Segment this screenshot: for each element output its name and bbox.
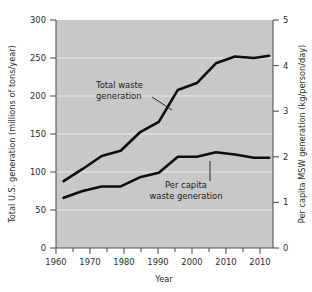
x-tick-label: 2010 [249,257,270,267]
right-tick-label: 1 [283,197,288,207]
left-tick-label: 100 [30,167,46,177]
chart-figure: 300 250 200 150 100 50 0 Total U.S. gene… [0,0,312,292]
left-tick-label: 250 [30,53,46,63]
right-tick-label: 4 [283,61,288,71]
x-tick-label: 1980 [113,257,134,267]
left-axis: 300 250 200 150 100 50 0 Total U.S. gene… [7,15,56,253]
x-tick-label: 2010 [215,257,236,267]
annotation-per-capita-line2: waste generation [150,191,223,201]
annotation-total-waste-line2: generation [96,91,142,101]
right-tick-label: 5 [283,15,288,25]
left-tick-label: 300 [30,15,46,25]
left-tick-label: 200 [30,91,46,101]
x-tick-label: 1990 [147,257,168,267]
right-axis: 5 4 3 2 1 0 Per capita MSW generation (k… [273,15,307,253]
left-tick-label: 150 [30,129,46,139]
x-tick-label: 2000 [181,257,202,267]
annotation-total-waste-line1: Total waste [95,80,143,90]
waste-generation-line-chart: 300 250 200 150 100 50 0 Total U.S. gene… [0,0,312,292]
left-tick-label: 0 [41,243,46,253]
right-tick-label: 2 [283,152,288,162]
right-tick-label: 0 [283,243,288,253]
x-axis: 1960 1970 1980 1990 2000 2010 2010 Year [45,248,273,284]
left-tick-label: 50 [35,205,46,215]
x-axis-title: Year [154,274,173,284]
left-axis-title: Total U.S. generation (millions of tons/… [7,45,17,224]
x-tick-label: 1960 [45,257,66,267]
right-axis-title: Per capita MSW generation (kg/person/day… [297,45,307,224]
right-tick-label: 3 [283,106,288,116]
annotation-per-capita-line1: Per capita [165,180,207,190]
x-tick-label: 1970 [79,257,100,267]
